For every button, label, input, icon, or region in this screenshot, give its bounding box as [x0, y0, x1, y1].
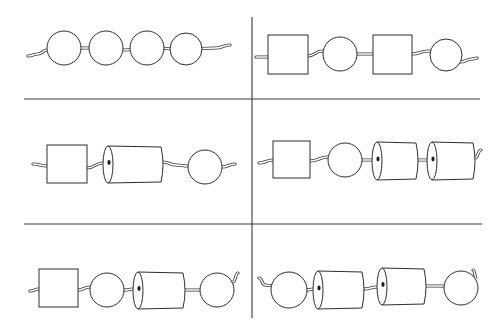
- cylinder-bead: [313, 271, 364, 309]
- cylinder-bead: [133, 272, 185, 309]
- square-bead: [273, 141, 310, 178]
- circle-bead: [170, 33, 202, 65]
- panel-middle-right: [259, 141, 481, 180]
- circle-bead: [430, 39, 462, 71]
- string-hole: [317, 286, 320, 291]
- panel-bottom-left: [30, 269, 238, 309]
- cylinder-end-face: [377, 268, 387, 305]
- circle-bead: [130, 31, 164, 65]
- panel-top-right: [256, 35, 477, 74]
- string-hole: [431, 157, 434, 162]
- circle-bead: [271, 272, 307, 308]
- circle-bead: [90, 273, 124, 307]
- cylinder-bead: [427, 142, 475, 180]
- circle-bead: [200, 273, 234, 307]
- circle-bead: [328, 143, 362, 177]
- cylinder-bead: [372, 142, 418, 180]
- circle-bead: [89, 31, 123, 65]
- cylinder-bead: [103, 146, 163, 183]
- bead-panels: [28, 31, 481, 309]
- cylinder-end-face: [313, 271, 323, 309]
- square-bead: [47, 145, 87, 183]
- circle-bead: [47, 31, 81, 65]
- square-bead: [268, 35, 308, 74]
- circle-bead: [323, 37, 357, 71]
- cylinder-end-face: [103, 146, 113, 183]
- cylinder-end-face: [427, 142, 437, 180]
- circle-bead: [444, 271, 478, 305]
- panel-top-left: [28, 31, 230, 65]
- square-bead: [373, 35, 412, 74]
- string-hole: [137, 286, 140, 291]
- string-hole: [107, 160, 110, 165]
- string-hole: [376, 157, 379, 162]
- panel-bottom-right: [259, 268, 478, 309]
- square-bead: [39, 269, 78, 307]
- bead-pattern-worksheet: [0, 0, 503, 328]
- string-hole: [381, 282, 384, 287]
- cylinder-end-face: [372, 142, 382, 180]
- panel-middle-left: [33, 145, 235, 184]
- cylinder-bead: [377, 268, 426, 305]
- cylinder-end-face: [133, 272, 143, 309]
- circle-bead: [188, 150, 222, 184]
